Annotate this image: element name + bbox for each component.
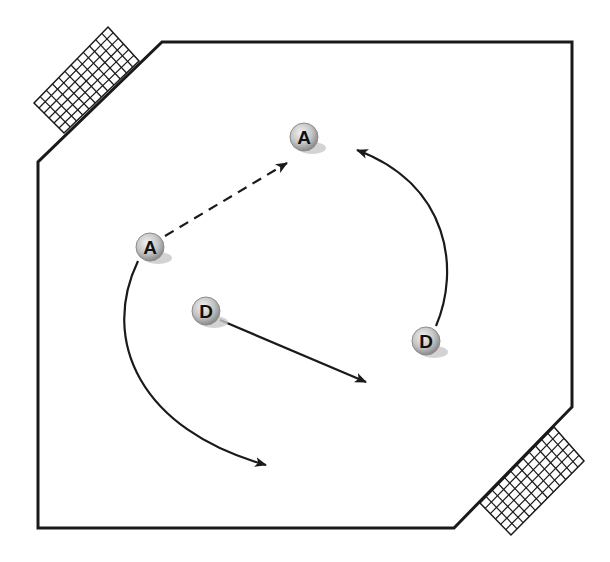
player-defender-center: D [192, 297, 228, 328]
soccer-drill-diagram: AADD [0, 0, 610, 562]
pass-dashed-arrow [165, 163, 287, 236]
player-label: D [419, 331, 433, 352]
player-label: A [297, 127, 311, 148]
field-boundary [38, 42, 572, 528]
player-attacker-left: A [136, 233, 172, 264]
player-defender-right: D [412, 327, 448, 358]
movement-paths [124, 150, 447, 465]
player-attacker-top: A [290, 123, 326, 154]
player-label: D [199, 301, 213, 322]
run-right-curve-arrow [357, 150, 447, 326]
run-left-curve-arrow [124, 261, 266, 465]
run-defender-straight-arrow [220, 320, 366, 382]
goal-bottom-right [480, 427, 584, 535]
player-label: A [143, 237, 157, 258]
players: AADD [136, 123, 448, 358]
